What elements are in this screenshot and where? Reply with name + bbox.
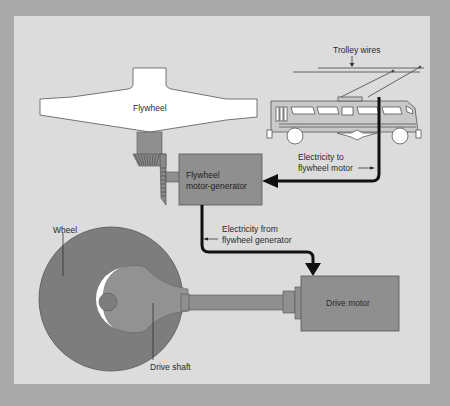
label-electricity-to-1: Electricity to [298, 152, 344, 163]
wheel [39, 227, 188, 371]
trolley-wires [293, 56, 424, 98]
label-electricity-to-2: flywheel motor [298, 163, 353, 174]
flywheel-bevel-gear [133, 132, 180, 205]
label-drive-shaft: Drive shaft [150, 362, 191, 373]
drive-shaft [181, 287, 314, 319]
diagram-canvas [0, 0, 450, 406]
label-drive-motor: Drive motor [326, 298, 370, 309]
flywheel [40, 68, 257, 132]
label-electricity-from-1: Electricity from [222, 224, 278, 235]
label-motor-generator-2: motor-generator [186, 181, 247, 192]
label-electricity-from-2: flywheel generator [222, 235, 291, 246]
trolley-bus [267, 97, 421, 144]
label-motor-generator-1: Flywheel [186, 170, 220, 181]
label-trolley-wires: Trolley wires [333, 45, 380, 56]
label-wheel: Wheel [53, 225, 77, 236]
label-flywheel: Flywheel [133, 103, 167, 114]
